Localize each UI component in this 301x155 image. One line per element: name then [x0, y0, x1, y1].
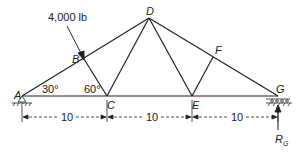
node-label-E: E	[192, 100, 199, 111]
node-label-D: D	[146, 6, 154, 17]
node-label-A: A	[14, 90, 21, 101]
angle-label-C: 60°	[84, 84, 101, 95]
node-label-F: F	[215, 45, 222, 56]
member-CD	[107, 18, 149, 96]
dimension-label-1: 10	[61, 112, 73, 123]
load-label: 4,000 lb	[48, 12, 87, 23]
node-label-G: G	[276, 84, 285, 95]
node-label-C: C	[107, 100, 115, 111]
member-EF	[192, 57, 213, 96]
reaction-subscript: G	[283, 140, 288, 147]
node-label-B: B	[72, 54, 79, 65]
reaction-label: RG	[275, 134, 288, 147]
truss-drawing	[0, 0, 301, 155]
dimension-label-2: 10	[146, 112, 158, 123]
member-DE	[149, 18, 192, 96]
member-DG	[149, 18, 278, 96]
truss-diagram: 4,000 lb A B C D E F G 30° 60° 10 10 10 …	[0, 0, 301, 155]
reaction-symbol: R	[275, 133, 283, 145]
dimension-label-3: 10	[231, 112, 243, 123]
roller-support-G	[266, 99, 292, 106]
angle-label-A: 30°	[42, 84, 59, 95]
